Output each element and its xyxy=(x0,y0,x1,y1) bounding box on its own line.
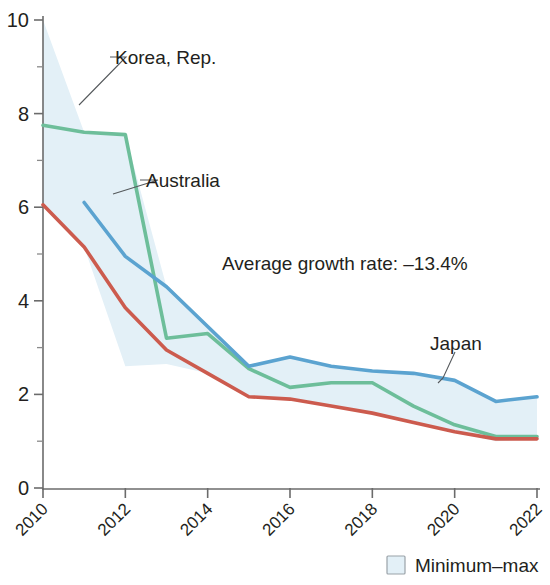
legend-swatch-minimum-maximum xyxy=(387,556,405,574)
callout-label-japan: Japan xyxy=(430,333,482,354)
y-tick-label-10: 10 xyxy=(7,9,29,31)
callout-label-australia: Australia xyxy=(146,170,220,191)
x-tick-label-2010: 2010 xyxy=(12,499,52,539)
x-tick-label-2018: 2018 xyxy=(341,499,381,539)
minimum-maximum-band xyxy=(43,20,537,441)
x-tick-label-2020: 2020 xyxy=(423,499,463,539)
legend-label-minimum-maximum: Minimum–max xyxy=(415,555,539,576)
y-tick-label-8: 8 xyxy=(18,103,29,125)
x-axis-ticks: 2010201220142016201820202022 xyxy=(12,488,546,540)
chart-canvas: 0246810 2010201220142016201820202022 Kor… xyxy=(0,0,550,585)
average-growth-rate-annotation: Average growth rate: –13.4% xyxy=(222,253,468,274)
y-tick-label-4: 4 xyxy=(18,290,29,312)
x-tick-label-2022: 2022 xyxy=(506,499,546,539)
x-tick-label-2016: 2016 xyxy=(259,499,299,539)
callout-label-korea: Korea, Rep. xyxy=(115,47,216,68)
y-tick-label-0: 0 xyxy=(18,477,29,499)
y-tick-label-2: 2 xyxy=(18,383,29,405)
x-tick-label-2012: 2012 xyxy=(94,499,134,539)
x-tick-label-2014: 2014 xyxy=(176,499,216,539)
y-tick-label-6: 6 xyxy=(18,196,29,218)
legend: Minimum–max xyxy=(387,555,539,576)
y-axis-ticks: 0246810 xyxy=(7,9,43,499)
growth-rate-line-chart: 0246810 2010201220142016201820202022 Kor… xyxy=(0,0,550,585)
